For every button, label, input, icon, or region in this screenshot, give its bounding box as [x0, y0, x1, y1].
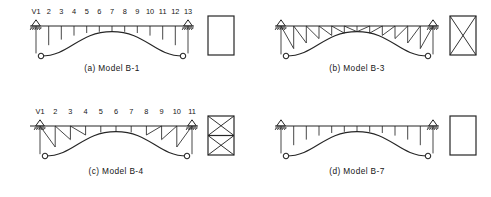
panel-c: V1 2 3 4 5 6 7 8 9 10 11	[30, 107, 234, 176]
roller-support-left	[30, 20, 41, 30]
node-label: 8	[123, 7, 127, 16]
node-label: 2	[47, 7, 51, 16]
node-label: 7	[129, 107, 133, 116]
node-label: 10	[173, 107, 181, 116]
node-label: 4	[84, 107, 88, 116]
arch-rib	[45, 132, 187, 156]
node-label: 6	[97, 7, 101, 16]
roller-support-right	[427, 120, 439, 130]
arch-rib	[41, 32, 183, 56]
panel-b-diagonals	[281, 26, 433, 49]
panel-c-node-labels: V1 2 3 4 5 6 7 8 9 10 11	[35, 107, 195, 116]
panel-caption: (d) Model B-7	[329, 166, 384, 176]
panel-d: (d) Model B-7	[275, 116, 476, 176]
panel-a: V1 2 3 4 5 6 7 8 9 10 11 12 13	[30, 7, 234, 73]
pin-end-right	[425, 53, 430, 58]
roller-support-left	[275, 120, 287, 130]
node-label: 5	[85, 7, 89, 16]
pin-end-left	[38, 53, 43, 58]
panel-a-hangers	[36, 26, 188, 53]
roller-support-left	[275, 20, 287, 30]
node-label: 3	[59, 7, 63, 16]
panel-caption: (c) Model B-4	[89, 166, 144, 176]
pin-end-left	[42, 153, 47, 158]
pin-end-left	[283, 153, 288, 158]
panel-b-cross-section	[450, 16, 476, 55]
node-label: 9	[135, 7, 139, 16]
pin-end-right	[425, 153, 430, 158]
pin-end-right	[180, 53, 185, 58]
panel-d-cross-section	[450, 116, 476, 155]
node-label: 8	[144, 107, 148, 116]
node-label: 2	[53, 107, 57, 116]
panel-a-node-labels: V1 2 3 4 5 6 7 8 9 10 11 12 13	[31, 7, 192, 16]
node-label: 6	[114, 107, 118, 116]
panel-caption: (b) Model B-3	[329, 63, 384, 73]
arch-bridge-models-figure: V1 2 3 4 5 6 7 8 9 10 11 12 13	[0, 0, 491, 197]
node-label: 13	[184, 7, 192, 16]
node-label: 11	[159, 7, 167, 16]
pin-end-right	[184, 153, 189, 158]
node-label: 3	[68, 107, 72, 116]
panel-a-cross-section	[208, 16, 234, 55]
roller-support-right	[427, 20, 439, 30]
panel-caption: (a) Model B-1	[84, 63, 139, 73]
node-label: 11	[188, 107, 196, 116]
roller-support-right	[182, 20, 194, 30]
node-label: V1	[35, 107, 44, 116]
node-label: 12	[171, 7, 179, 16]
node-label: V1	[31, 7, 40, 16]
panel-d-hangers	[281, 126, 433, 153]
panel-c-cross-section	[208, 116, 234, 155]
figure-canvas: V1 2 3 4 5 6 7 8 9 10 11 12 13	[0, 0, 491, 197]
roller-support-right	[186, 120, 198, 130]
node-label: 9	[160, 107, 164, 116]
node-label: 10	[146, 7, 154, 16]
roller-support-left	[34, 120, 46, 130]
arch-rib	[286, 132, 428, 156]
node-label: 4	[72, 7, 76, 16]
panel-b: (b) Model B-3	[275, 16, 476, 73]
node-label: 5	[99, 107, 103, 116]
pin-end-left	[283, 53, 288, 58]
arch-rib	[286, 32, 428, 56]
node-label: 7	[110, 7, 114, 16]
